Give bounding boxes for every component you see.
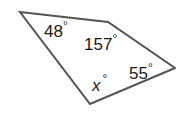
quadrilateral-diagram: 48° 157° 55° x° (0, 0, 176, 113)
angle-label-48: 48° (44, 19, 68, 41)
angle-label-x: x° (91, 72, 108, 95)
angle-label-157: 157° (84, 32, 117, 54)
